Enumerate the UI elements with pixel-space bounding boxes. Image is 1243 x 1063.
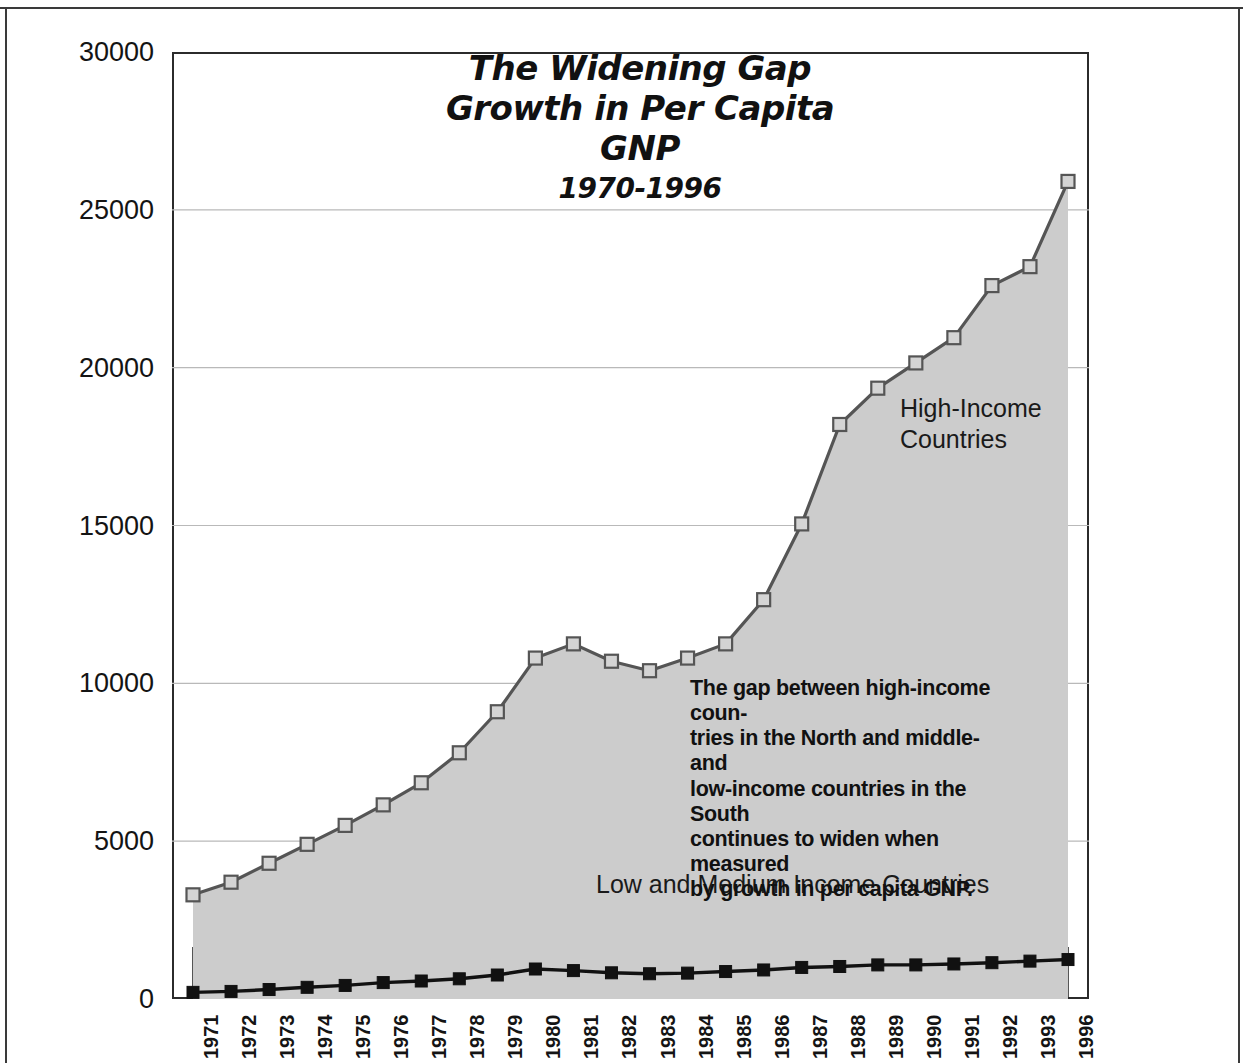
chart-page: 050001000015000200002500030000 197119721… [0,0,1243,1063]
annotation-text: The gap between high-income coun- tries … [690,676,1020,902]
x-axis-tick-label: 1996 [1075,1015,1098,1060]
x-axis-tick-label: 1973 [276,1015,299,1060]
x-axis-tick-label: 1978 [466,1015,489,1060]
x-axis-tick-label: 1988 [847,1015,870,1060]
x-axis-tick-label: 1983 [657,1015,680,1060]
page-border-top [0,7,1243,9]
x-axis: 1971197219731974197519761977197819791980… [172,1001,1089,1063]
x-axis-tick-label: 1985 [733,1015,756,1060]
page-border-right [1238,7,1240,1063]
y-axis: 050001000015000200002500030000 [0,0,172,1063]
y-axis-tick-label: 30000 [79,37,154,68]
x-axis-tick-label: 1971 [200,1015,223,1060]
x-axis-tick-label: 1992 [999,1015,1022,1060]
x-axis-tick-label: 1980 [542,1015,565,1060]
x-axis-tick-label: 1977 [428,1015,451,1060]
x-axis-tick-label: 1976 [390,1015,413,1060]
x-axis-tick-label: 1990 [923,1015,946,1060]
y-axis-tick-label: 5000 [94,826,154,857]
x-axis-tick-label: 1981 [580,1015,603,1060]
x-axis-tick-label: 1982 [618,1015,641,1060]
x-axis-tick-label: 1987 [809,1015,832,1060]
y-axis-tick-label: 20000 [79,352,154,383]
y-axis-tick-label: 0 [139,984,154,1015]
x-axis-tick-label: 1979 [504,1015,527,1060]
series-label-high-income: High-Income Countries [900,393,1042,456]
x-axis-tick-label: 1984 [695,1015,718,1060]
x-axis-tick-label: 1993 [1037,1015,1060,1060]
x-axis-tick-label: 1975 [352,1015,375,1060]
x-axis-tick-label: 1972 [238,1015,261,1060]
y-axis-tick-label: 10000 [79,668,154,699]
y-axis-tick-label: 25000 [79,194,154,225]
x-axis-tick-label: 1974 [314,1015,337,1060]
y-axis-tick-label: 15000 [79,510,154,541]
x-axis-tick-label: 1989 [885,1015,908,1060]
x-axis-tick-label: 1986 [771,1015,794,1060]
x-axis-tick-label: 1991 [961,1015,984,1060]
